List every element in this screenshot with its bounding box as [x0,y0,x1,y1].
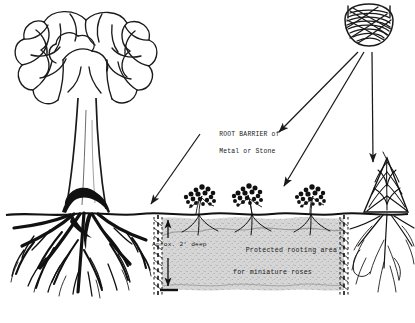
label-root-barrier: ROOT BARRIER of Metal or Stone [203,122,280,165]
label-root-barrier-line2: Metal or Stone [219,148,276,155]
label-approx-depth: Aprox. 2' deep [152,241,207,249]
sun-ray-left [279,52,358,132]
tree-root-mass [11,213,151,298]
miniature-rose-3 [295,184,326,214]
diagram-canvas: ROOT BARRIER of Metal or Stone Aprox. 2'… [0,0,415,323]
dashed-root-barrier-left [154,215,162,298]
sun-ray-middle [284,52,364,186]
evergreen-tree-right [364,152,408,212]
sun-icon [345,4,393,46]
label-protected-line2: for miniature roses [233,269,337,278]
sun-ray-right [372,52,373,162]
label-protected-line1: Protected rooting area [246,247,337,254]
miniature-rose-1 [184,184,216,214]
label-root-barrier-line1: ROOT BARRIER of [219,131,280,138]
label-protected-rooting-area: Protected rooting area for miniature ros… [229,238,337,295]
shade-tree-canopy [15,12,157,104]
miniature-rose-2 [232,183,263,214]
conifer-root-system [350,214,414,292]
